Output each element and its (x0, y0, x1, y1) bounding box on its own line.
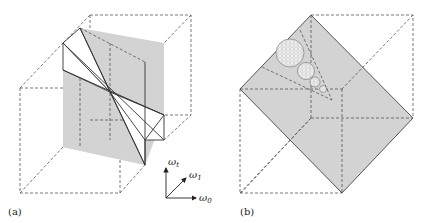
panel-b-diagram: (b) (240, 15, 413, 217)
panel-label-b: (b) (240, 206, 254, 217)
panel-label-a: (a) (8, 206, 22, 217)
axis-label-omega-0: ω0 (199, 192, 212, 205)
panel-a-diagram: ωt ω1 ω0 (a) (8, 15, 212, 217)
axis-label-omega-1: ω1 (189, 169, 202, 182)
axis-label-omega-t: ωt (168, 156, 179, 169)
